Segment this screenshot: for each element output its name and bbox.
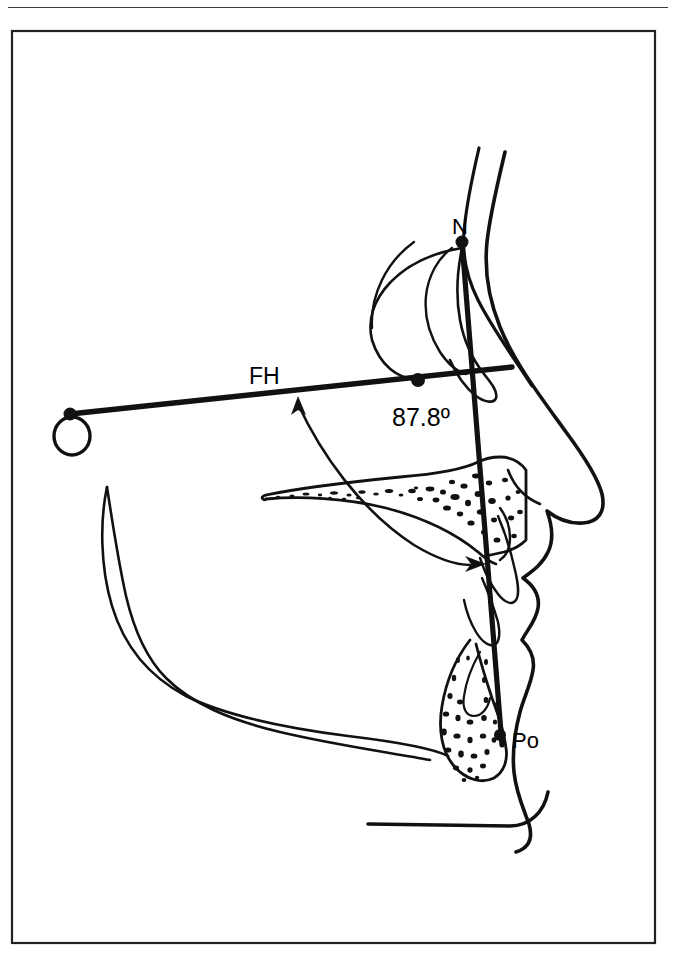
cranial-contour (372, 242, 414, 328)
facial-angle-arc (370, 248, 462, 380)
palate-anterior-tip (262, 495, 266, 500)
label-nasion: N (452, 214, 468, 239)
label-pogonion: Po (512, 728, 539, 753)
arrowhead-up-icon (291, 396, 306, 415)
mandible-outline (107, 487, 430, 760)
landmark-intersection-dot (411, 373, 425, 387)
maxilla-stipple (276, 474, 523, 543)
label-facial-angle-value: 87.8º (392, 403, 450, 431)
lip-detail (508, 470, 540, 504)
landmark-porion-dot (64, 408, 77, 421)
soft-tissue-profile (486, 152, 603, 852)
mandible-lower-border (102, 487, 448, 756)
cephalometric-figure: N FH 87.8º Po (0, 0, 675, 956)
figure-frame (12, 31, 655, 943)
orbitale-ring-icon (54, 417, 90, 455)
label-frankfort-horizontal: FH (249, 363, 280, 389)
palate-lower-border (266, 498, 496, 564)
